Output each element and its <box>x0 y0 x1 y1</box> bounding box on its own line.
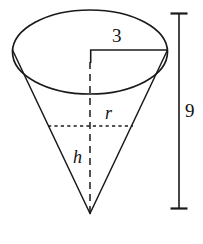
radius-symbol-label: r <box>105 104 112 122</box>
cone-diagram-svg <box>0 0 203 244</box>
height-symbol-label: h <box>73 148 82 166</box>
top-radius-label: 3 <box>112 26 122 45</box>
cone-figure: 3 9 r h <box>0 0 203 244</box>
total-height-label: 9 <box>185 101 195 120</box>
